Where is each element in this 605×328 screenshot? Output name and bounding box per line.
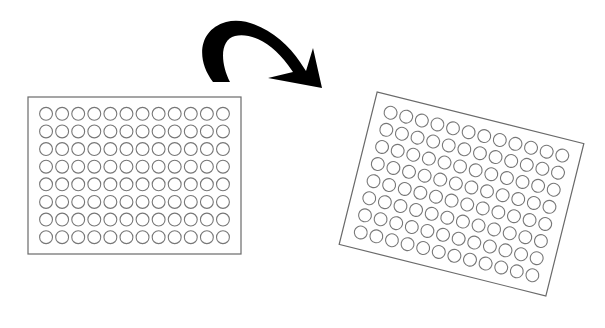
well	[200, 196, 213, 209]
well	[217, 160, 230, 173]
well	[88, 178, 101, 191]
well	[478, 256, 494, 272]
well	[72, 213, 85, 226]
well	[455, 214, 471, 230]
well	[542, 199, 558, 215]
well	[457, 142, 473, 158]
well	[104, 178, 117, 191]
well	[417, 168, 433, 184]
well	[447, 248, 463, 264]
well	[40, 231, 53, 244]
well	[482, 239, 498, 255]
well	[217, 107, 230, 120]
well	[56, 143, 69, 156]
well	[488, 149, 504, 165]
well	[88, 160, 101, 173]
well	[441, 138, 457, 154]
well	[508, 136, 524, 152]
well	[492, 132, 508, 148]
well	[104, 107, 117, 120]
well	[394, 126, 410, 142]
well	[539, 144, 555, 160]
well	[537, 216, 553, 232]
well	[168, 160, 181, 173]
well	[56, 107, 69, 120]
well	[217, 213, 230, 226]
well	[200, 160, 213, 173]
well	[217, 125, 230, 138]
well	[518, 229, 534, 245]
well	[374, 139, 390, 155]
well	[104, 143, 117, 156]
well-plate-original	[28, 97, 241, 254]
well	[56, 178, 69, 191]
well	[168, 231, 181, 244]
well	[56, 213, 69, 226]
well	[401, 164, 417, 180]
well	[152, 143, 165, 156]
well	[475, 201, 491, 217]
well	[445, 121, 461, 137]
well	[56, 196, 69, 209]
well	[72, 178, 85, 191]
well	[491, 204, 507, 220]
well	[217, 196, 230, 209]
well	[152, 125, 165, 138]
well	[168, 107, 181, 120]
well	[200, 125, 213, 138]
well	[420, 223, 436, 239]
well	[425, 134, 441, 150]
well	[40, 213, 53, 226]
well	[200, 107, 213, 120]
well	[530, 178, 546, 194]
well	[217, 231, 230, 244]
well	[430, 117, 446, 133]
well	[120, 160, 133, 173]
well	[370, 156, 386, 172]
well	[353, 225, 369, 241]
well	[184, 213, 197, 226]
well	[476, 128, 492, 144]
well	[136, 143, 149, 156]
well	[468, 162, 484, 178]
well	[410, 130, 426, 146]
well	[184, 160, 197, 173]
well	[509, 264, 525, 280]
well-plate-rotated	[339, 92, 584, 296]
well	[72, 107, 85, 120]
well	[428, 189, 444, 205]
well	[393, 198, 409, 214]
well	[168, 178, 181, 191]
well	[384, 232, 400, 248]
well	[40, 160, 53, 173]
well	[104, 196, 117, 209]
well	[377, 194, 393, 210]
rotation-arrow-icon	[202, 21, 322, 88]
well	[40, 178, 53, 191]
well	[381, 177, 397, 193]
well	[72, 231, 85, 244]
well	[200, 178, 213, 191]
well	[459, 197, 475, 213]
well	[535, 161, 551, 177]
well	[200, 231, 213, 244]
plate-outline	[28, 97, 241, 254]
well	[366, 173, 382, 189]
well	[522, 212, 538, 228]
well	[217, 143, 230, 156]
well	[554, 148, 570, 164]
well	[184, 178, 197, 191]
well	[379, 122, 395, 138]
well	[502, 225, 518, 241]
well	[357, 208, 373, 224]
well	[40, 196, 53, 209]
well	[464, 180, 480, 196]
well	[369, 229, 385, 245]
well	[533, 233, 549, 249]
well	[136, 107, 149, 120]
well	[495, 187, 511, 203]
well	[72, 196, 85, 209]
well	[493, 260, 509, 276]
well	[448, 176, 464, 192]
well	[400, 236, 416, 252]
